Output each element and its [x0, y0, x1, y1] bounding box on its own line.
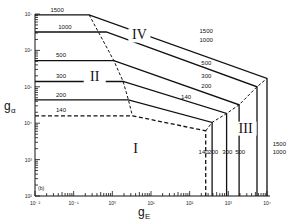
series-line-140 — [35, 116, 206, 196]
y-axis-title: g — [4, 99, 11, 113]
curve-label-1000: 1000 — [273, 149, 287, 155]
curve-label-300: 300 — [201, 73, 212, 79]
y-tick-label: 10⁴ — [24, 120, 32, 126]
y-tick-label: 10⁵ — [24, 84, 32, 90]
curve-label-1500: 1500 — [50, 7, 64, 13]
x-tick-label: 10⁴ — [263, 200, 271, 206]
x-axis-title-sub: E — [145, 212, 150, 221]
y-tick-label: 10² — [25, 193, 33, 199]
x-tick-label: 10⁰ — [109, 200, 117, 206]
x-tick-label: 10⁻² — [30, 200, 41, 206]
curve-label-500: 500 — [235, 149, 246, 155]
curve-label-500: 500 — [56, 52, 67, 58]
curve-label-200: 200 — [56, 92, 67, 98]
panel-label: (b) — [38, 185, 44, 191]
region-label-I: I — [133, 141, 138, 156]
curve-label-300: 300 — [56, 73, 67, 79]
x-tick-label: 10³ — [225, 200, 233, 206]
phase-diagram-chart: 10⁻²10⁻¹10⁰10¹10²10³10⁴10²10³10⁴10⁵10⁶10… — [0, 0, 290, 224]
curve-label-1500: 1500 — [273, 141, 287, 147]
curve-label-1000: 1000 — [58, 24, 72, 30]
series-layer — [35, 15, 267, 196]
series-line-1000 — [35, 32, 257, 196]
curve-label-1000: 1000 — [200, 37, 214, 43]
series-line-200 — [35, 100, 212, 196]
x-tick-label: 10¹ — [147, 200, 155, 206]
x-axis-title: g — [138, 205, 145, 219]
region-label-IV: IV — [132, 27, 147, 42]
curve-label-140: 140 — [181, 94, 192, 100]
x-tick-label: 10² — [186, 200, 194, 206]
curve-label-300: 300 — [222, 149, 233, 155]
curve-label-500: 500 — [201, 60, 212, 66]
curve-label-200: 200 — [201, 83, 212, 89]
curve-label-200: 200 — [208, 149, 219, 155]
curve-label-140: 140 — [56, 107, 67, 113]
y-tick-label: 10³ — [25, 157, 33, 163]
region-label-II: II — [90, 69, 100, 84]
labels-layer: IIIIIIIV15001000500300200140150010005003… — [50, 7, 286, 156]
x-tick-label: 10⁻¹ — [69, 200, 80, 206]
y-axis-title-sub: α — [11, 106, 16, 115]
y-tick-label: 10⁶ — [24, 47, 32, 53]
series-line-300 — [35, 82, 227, 197]
curve-label-1500: 1500 — [200, 28, 214, 34]
y-tick-label: 10⁷ — [25, 11, 33, 17]
region-label-III: III — [239, 121, 253, 136]
